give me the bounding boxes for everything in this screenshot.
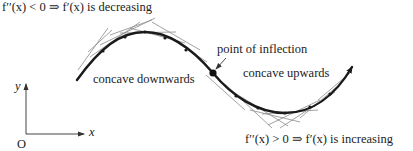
y-axis-label: y bbox=[15, 80, 21, 93]
concave-up-label: concave upwards bbox=[243, 67, 329, 80]
inflection-point-marker bbox=[209, 69, 216, 76]
concave-up-condition: f′′(x) > 0 ⇒ f′(x) is increasing bbox=[245, 133, 393, 146]
axes bbox=[26, 84, 84, 134]
diagram-canvas bbox=[0, 0, 413, 151]
inflection-pointer bbox=[216, 58, 226, 69]
origin-label: O bbox=[17, 138, 26, 151]
concave-down-condition: f′′(x) < 0 ⇒ f′(x) is decreasing bbox=[2, 1, 152, 14]
x-axis-label: x bbox=[89, 126, 95, 139]
concave-down-label: concave downwards bbox=[93, 73, 195, 86]
inflection-label: point of inflection bbox=[217, 43, 307, 56]
